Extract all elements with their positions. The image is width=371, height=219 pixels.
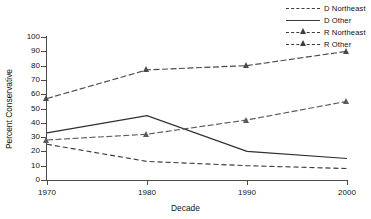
x-tick-mark [47, 180, 48, 185]
data-point-marker [43, 95, 49, 101]
legend-item-label: D Northeast [324, 4, 366, 14]
x-axis-line [46, 180, 348, 181]
legend-item[interactable]: R Northeast [286, 27, 371, 38]
x-tick-mark [147, 180, 148, 185]
legend-item[interactable]: D Northeast [286, 3, 371, 14]
legend-item[interactable]: R Other [286, 39, 371, 50]
data-point-marker [343, 48, 349, 54]
y-tick-mark [41, 51, 46, 52]
y-tick-mark [41, 151, 46, 152]
legend-line-icon [286, 20, 320, 21]
legend-line-icon [286, 8, 320, 9]
y-axis-line [46, 36, 47, 181]
legend-swatch-icon [286, 3, 320, 14]
y-tick-mark [41, 123, 46, 124]
x-tick-label: 2000 [324, 188, 370, 197]
y-tick-mark [41, 66, 46, 67]
data-point-marker [143, 131, 149, 137]
chart-figure: D NortheastD OtherR NortheastR Other 010… [0, 0, 371, 219]
legend-swatch-icon [286, 39, 320, 50]
series-line-r-northeast [47, 101, 347, 140]
legend-item[interactable]: D Other [286, 15, 371, 26]
x-tick-label: 1970 [24, 188, 70, 197]
x-tick-label: 1980 [124, 188, 170, 197]
y-tick-mark [41, 137, 46, 138]
x-tick-mark [247, 180, 248, 185]
legend-item-label: R Northeast [324, 28, 366, 38]
data-point-marker [143, 66, 149, 72]
legend-swatch-icon [286, 15, 320, 26]
y-tick-label: 100 [0, 33, 40, 41]
data-point-marker [343, 98, 349, 104]
series-line-d-other [47, 116, 347, 159]
series-line-d-northeast [47, 144, 347, 168]
y-tick-mark [41, 180, 46, 181]
y-tick-mark [41, 80, 46, 81]
legend-triangle-icon [300, 28, 306, 34]
series-line-r-other [47, 51, 347, 98]
x-tick-label: 1990 [224, 188, 270, 197]
legend-item-label: D Other [324, 16, 351, 26]
x-axis-title: Decade [0, 203, 371, 213]
y-tick-mark [41, 166, 46, 167]
data-point-marker [243, 62, 249, 68]
legend-triangle-icon [300, 40, 306, 46]
chart-legend: D NortheastD OtherR NortheastR Other [286, 3, 371, 51]
y-tick-label: 0 [0, 176, 40, 184]
y-tick-mark [41, 94, 46, 95]
data-point-marker [243, 117, 249, 123]
legend-swatch-icon [286, 27, 320, 38]
y-tick-mark [41, 37, 46, 38]
y-axis-title: Percent Conservative [4, 49, 14, 169]
x-tick-mark [347, 180, 348, 185]
y-tick-mark [41, 109, 46, 110]
